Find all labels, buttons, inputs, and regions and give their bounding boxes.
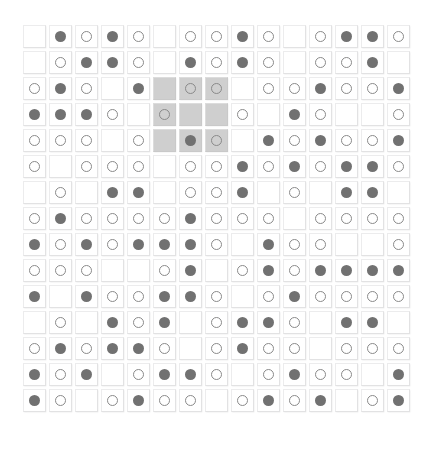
grid-cell[interactable] <box>229 75 255 101</box>
grid-cell[interactable] <box>151 283 177 309</box>
grid-cell[interactable] <box>359 75 385 101</box>
grid-cell[interactable] <box>359 283 385 309</box>
grid-cell[interactable] <box>203 205 229 231</box>
grid-cell[interactable] <box>281 205 307 231</box>
grid-cell[interactable] <box>281 387 307 413</box>
grid-cell[interactable] <box>47 23 73 49</box>
grid-cell[interactable] <box>47 257 73 283</box>
grid-cell[interactable] <box>255 205 281 231</box>
grid-cell[interactable] <box>73 231 99 257</box>
grid-cell[interactable] <box>73 387 99 413</box>
grid-cell[interactable] <box>203 283 229 309</box>
grid-cell[interactable] <box>151 205 177 231</box>
grid-cell[interactable] <box>151 179 177 205</box>
grid-cell[interactable] <box>125 101 151 127</box>
grid-cell[interactable] <box>203 75 229 101</box>
grid-cell[interactable] <box>203 231 229 257</box>
grid-cell[interactable] <box>333 75 359 101</box>
grid-cell[interactable] <box>151 387 177 413</box>
grid-cell[interactable] <box>255 127 281 153</box>
grid-cell[interactable] <box>359 231 385 257</box>
grid-cell[interactable] <box>47 205 73 231</box>
grid-cell[interactable] <box>255 153 281 179</box>
grid-cell[interactable] <box>359 101 385 127</box>
grid-cell[interactable] <box>359 309 385 335</box>
grid-cell[interactable] <box>99 387 125 413</box>
grid-cell[interactable] <box>359 361 385 387</box>
grid-cell[interactable] <box>203 101 229 127</box>
grid-cell[interactable] <box>281 231 307 257</box>
grid-cell[interactable] <box>73 153 99 179</box>
grid-cell[interactable] <box>99 335 125 361</box>
grid-cell[interactable] <box>229 127 255 153</box>
grid-cell[interactable] <box>99 127 125 153</box>
grid-cell[interactable] <box>333 101 359 127</box>
grid-cell[interactable] <box>333 205 359 231</box>
grid-cell[interactable] <box>21 179 47 205</box>
grid-cell[interactable] <box>255 361 281 387</box>
grid-cell[interactable] <box>73 101 99 127</box>
grid-cell[interactable] <box>255 387 281 413</box>
grid-cell[interactable] <box>203 127 229 153</box>
grid-cell[interactable] <box>359 179 385 205</box>
grid-cell[interactable] <box>177 127 203 153</box>
grid-cell[interactable] <box>73 335 99 361</box>
grid-cell[interactable] <box>307 283 333 309</box>
grid-cell[interactable] <box>229 101 255 127</box>
grid-cell[interactable] <box>21 153 47 179</box>
grid-cell[interactable] <box>73 361 99 387</box>
grid-cell[interactable] <box>21 335 47 361</box>
grid-cell[interactable] <box>385 205 411 231</box>
grid-cell[interactable] <box>177 231 203 257</box>
grid-cell[interactable] <box>99 23 125 49</box>
grid-cell[interactable] <box>125 179 151 205</box>
grid-cell[interactable] <box>229 205 255 231</box>
grid-cell[interactable] <box>255 23 281 49</box>
grid-cell[interactable] <box>125 283 151 309</box>
grid-cell[interactable] <box>229 283 255 309</box>
grid-cell[interactable] <box>307 127 333 153</box>
grid-cell[interactable] <box>99 231 125 257</box>
grid-cell[interactable] <box>307 49 333 75</box>
grid-cell[interactable] <box>385 127 411 153</box>
grid-cell[interactable] <box>333 309 359 335</box>
grid-cell[interactable] <box>125 153 151 179</box>
grid-cell[interactable] <box>333 49 359 75</box>
grid-cell[interactable] <box>385 23 411 49</box>
grid-cell[interactable] <box>307 231 333 257</box>
grid-cell[interactable] <box>21 283 47 309</box>
grid-cell[interactable] <box>151 75 177 101</box>
grid-cell[interactable] <box>151 23 177 49</box>
grid-cell[interactable] <box>125 231 151 257</box>
grid-cell[interactable] <box>307 153 333 179</box>
grid-cell[interactable] <box>281 335 307 361</box>
grid-cell[interactable] <box>99 101 125 127</box>
grid-cell[interactable] <box>177 75 203 101</box>
grid-cell[interactable] <box>333 361 359 387</box>
grid-cell[interactable] <box>99 75 125 101</box>
grid-cell[interactable] <box>229 361 255 387</box>
grid-cell[interactable] <box>385 335 411 361</box>
grid-cell[interactable] <box>203 361 229 387</box>
grid-cell[interactable] <box>385 101 411 127</box>
grid-cell[interactable] <box>281 283 307 309</box>
grid-cell[interactable] <box>385 153 411 179</box>
grid-cell[interactable] <box>385 387 411 413</box>
grid-cell[interactable] <box>203 23 229 49</box>
grid-cell[interactable] <box>125 335 151 361</box>
grid-cell[interactable] <box>281 179 307 205</box>
grid-cell[interactable] <box>73 257 99 283</box>
grid-cell[interactable] <box>73 309 99 335</box>
grid-cell[interactable] <box>47 153 73 179</box>
grid-cell[interactable] <box>73 179 99 205</box>
grid-cell[interactable] <box>125 205 151 231</box>
grid-cell[interactable] <box>281 101 307 127</box>
grid-cell[interactable] <box>99 153 125 179</box>
grid-cell[interactable] <box>203 309 229 335</box>
grid-cell[interactable] <box>307 387 333 413</box>
grid-cell[interactable] <box>307 75 333 101</box>
grid-cell[interactable] <box>203 49 229 75</box>
grid-cell[interactable] <box>21 101 47 127</box>
grid-cell[interactable] <box>21 231 47 257</box>
grid-cell[interactable] <box>47 49 73 75</box>
